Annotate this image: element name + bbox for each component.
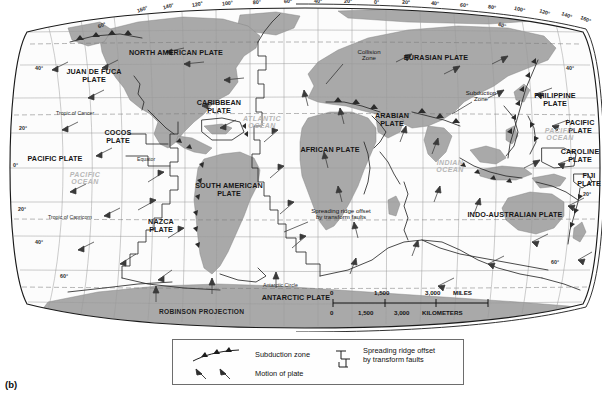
scale-miles-tick-3000: 3,000	[425, 290, 440, 297]
legend-label-spreading-ridge-line1: Spreading ridge offset	[363, 346, 435, 355]
legend-item-spreading-ridge-offset: Spreading ridge offset by transform faul…	[331, 346, 435, 374]
lon-label-20e: 20°	[402, 0, 410, 6]
world-map: NORTH AMERICAN PLATE JUAN DE FUCA PLATE …	[8, 2, 602, 332]
plate-label-line: PACIFIC PLATE	[15, 155, 95, 163]
lat-label-right-20s: 20°	[583, 192, 591, 198]
plate-label-south-american: SOUTH AMERICAN PLATE	[183, 182, 275, 197]
plate-label-nazca: NAZCA PLATE	[132, 218, 190, 233]
plate-label-line: PLATE	[362, 120, 422, 128]
plate-label-line: NORTH AMERICAN PLATE	[128, 49, 224, 57]
callout-line: by transform faults	[288, 214, 394, 220]
label-tropic-of-cancer: Tropic of Cancer	[56, 111, 94, 116]
ocean-label-line: ATLANTIC	[230, 115, 294, 122]
panel-letter-b: (b)	[5, 379, 17, 390]
lat-label-right-60s: 60°	[551, 260, 559, 266]
lon-label-40w: 40°	[314, 0, 322, 5]
callout-line: Zone	[338, 55, 400, 61]
plate-label-line: PLATE	[88, 137, 148, 145]
lat-label-left-20n: 20°	[19, 126, 27, 132]
ocean-label-line: OCEAN	[230, 122, 294, 129]
plate-label-line: PLATE	[183, 190, 275, 198]
plate-label-line: PLATE	[521, 100, 589, 108]
plate-label-pacific-west: PACIFIC PLATE	[15, 155, 95, 163]
label-equator: Equator	[137, 157, 155, 162]
legend-item-subduction-zone: Subduction zone	[187, 346, 310, 364]
plate-label-north-american: NORTH AMERICAN PLATE	[128, 49, 224, 57]
label-tropic-of-capricorn: Tropic of Capricorn	[48, 215, 92, 220]
lat-label-left-20s: 20°	[18, 207, 26, 213]
lon-label-80w: 80°	[253, 0, 261, 6]
motion-of-plate-symbol-icon	[187, 366, 247, 382]
projection-label: ROBINSON PROJECTION	[159, 309, 244, 316]
plate-label-juan-de-fuca: JUAN DE FUCA PLATE	[54, 68, 134, 83]
callout-line: Zone	[449, 96, 513, 102]
lon-label-20w: 20°	[344, 0, 352, 5]
transform-fault-symbol-icon	[331, 346, 357, 374]
ocean-label-line: INDIAN	[421, 159, 479, 166]
lat-label-left-60s: 60°	[60, 274, 68, 280]
plate-label-caribbean: CARIBBEAN PLATE	[181, 99, 257, 114]
plate-label-eurasian: EURASIAN PLATE	[394, 54, 478, 62]
label-antarctic-circle: Antarctic Circle	[263, 283, 298, 288]
scale-km-tick-0: 0	[330, 310, 333, 317]
ocean-label-pacific-west: PACIFIC OCEAN	[56, 171, 114, 186]
ocean-label-indian: INDIAN OCEAN	[421, 159, 479, 174]
map-graphic	[8, 2, 602, 332]
lon-label-60e: 60°	[460, 2, 469, 9]
callout-subduction-zone: Subduction Zone	[449, 90, 513, 103]
legend-label-spreading-ridge-line2: by transform faults	[363, 355, 435, 364]
scale-miles-unit: MILES	[453, 290, 472, 297]
lon-label-40e: 40°	[431, 1, 439, 7]
ocean-label-line: OCEAN	[421, 166, 479, 173]
ocean-label-line: PACIFIC	[532, 127, 588, 134]
plate-label-philippine: PHILIPPINE PLATE	[521, 92, 589, 107]
callout-collision-zone: Collision Zone	[338, 49, 400, 62]
scale-km-unit: KILOMETERS	[422, 310, 463, 317]
legend-item-motion-of-plate: Motion of plate	[187, 366, 303, 382]
ocean-label-atlantic: ATLANTIC OCEAN	[230, 115, 294, 130]
scale-km-tick-1500: 1,500	[358, 310, 373, 317]
lat-label-left-0: 0°	[13, 163, 18, 169]
plate-label-line: PLATE	[548, 156, 609, 164]
figure-panel-b: NORTH AMERICAN PLATE JUAN DE FUCA PLATE …	[0, 0, 609, 401]
plate-label-african: AFRICAN PLATE	[289, 146, 371, 154]
plate-label-indo-australian: INDO-AUSTRALIAN PLATE	[455, 211, 575, 219]
plate-label-arabian: ARABIAN PLATE	[362, 112, 422, 127]
plate-label-line: INDO-AUSTRALIAN PLATE	[455, 211, 575, 219]
plate-label-line: PLATE	[567, 180, 609, 188]
lon-label-60w: 60°	[284, 0, 292, 5]
lat-label-left-40s: 40°	[35, 240, 43, 246]
lat-label-left-40n: 40°	[35, 66, 43, 72]
callout-spreading-ridge-offset: Spreading ridge offset by transform faul…	[288, 208, 394, 221]
plate-label-line: EURASIAN PLATE	[394, 54, 478, 62]
legend-label-subduction-zone: Subduction zone	[255, 350, 310, 359]
plate-label-caroline: CAROLINE PLATE	[548, 148, 609, 163]
map-legend: Subduction zone Motion of plate	[172, 339, 464, 385]
plate-label-cocos: COCOS PLATE	[88, 129, 148, 144]
plate-label-line: PLATE	[54, 76, 134, 84]
subduction-zone-symbol-icon	[187, 346, 247, 364]
lon-label-0: 0°	[374, 0, 379, 6]
ocean-label-pacific-east: PACIFIC OCEAN	[532, 127, 588, 142]
ocean-label-line: OCEAN	[532, 134, 588, 141]
plate-label-fiji: FIJI PLATE	[567, 172, 609, 187]
ocean-label-line: PACIFIC	[56, 171, 114, 178]
legend-label-motion-of-plate: Motion of plate	[255, 369, 303, 378]
plate-label-line: PLATE	[132, 226, 190, 234]
plate-label-line: PLATE	[181, 107, 257, 115]
ocean-label-line: OCEAN	[56, 178, 114, 185]
plate-label-line: AFRICAN PLATE	[289, 146, 371, 154]
scale-km-tick-3000: 3,000	[394, 310, 409, 317]
lat-label-right-40n: 40°	[566, 66, 574, 72]
scale-miles-tick-0: 0	[330, 290, 333, 297]
scale-miles-tick-1500: 1,500	[374, 290, 389, 297]
